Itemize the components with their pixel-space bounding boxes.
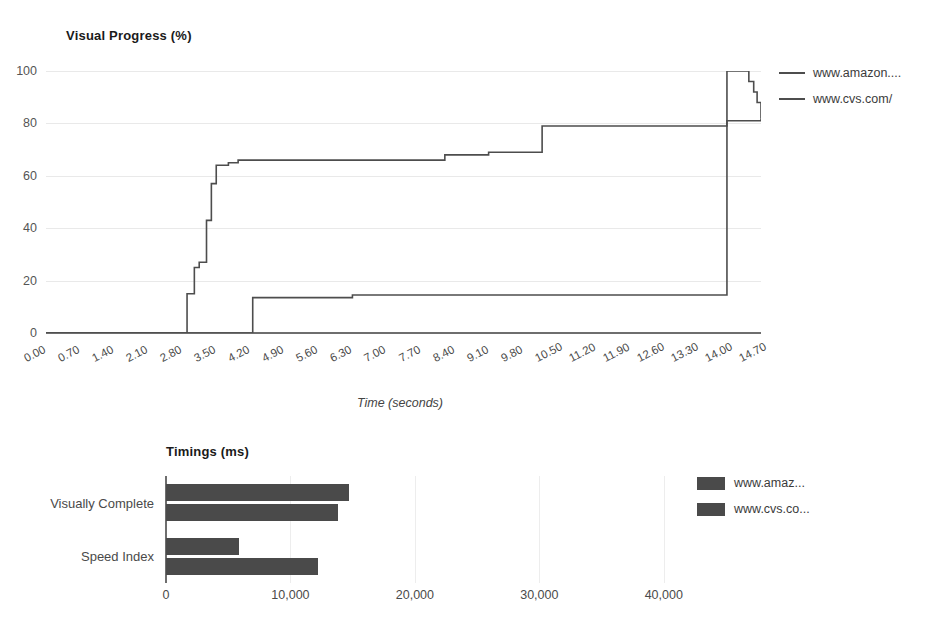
gridline (539, 476, 540, 583)
x-tick-label: 7.70 (396, 343, 421, 364)
timings-chart: Timings (ms) Visually CompleteSpeed Inde… (0, 430, 938, 619)
series-line (46, 118, 761, 333)
x-tick-label: 3.50 (192, 343, 217, 364)
y-tick-label: 80 (23, 116, 37, 130)
x-tick-label: 10,000 (271, 588, 309, 602)
gridline (664, 476, 665, 583)
bar[interactable] (166, 504, 338, 521)
x-tick-label: 40,000 (645, 588, 683, 602)
x-tick-label: 4.20 (226, 343, 251, 364)
x-tick-label: 9.80 (499, 343, 524, 364)
x-tick-label: 2.10 (124, 343, 149, 364)
legend-line-swatch-icon (779, 72, 805, 74)
x-tick-label: 14.70 (737, 340, 768, 364)
category-label: Speed Index (81, 549, 154, 564)
x-tick-label: 6.30 (328, 343, 353, 364)
y-tick-label: 100 (16, 64, 37, 78)
legend-item-amazon[interactable]: www.amazon.... (779, 66, 901, 80)
x-tick-label: 1.40 (90, 343, 115, 364)
x-tick-label: 5.60 (294, 343, 319, 364)
legend-label-amazon: www.amazon.... (813, 66, 901, 80)
x-tick-label: 11.90 (601, 341, 631, 364)
legend-swatch-icon (697, 477, 725, 490)
y-tick-label: 60 (23, 169, 37, 183)
y-tick-label: 40 (23, 221, 37, 235)
bar-chart-plot-area: Visually CompleteSpeed Index 010,00020,0… (166, 476, 726, 583)
x-tick-label: 12.60 (635, 340, 666, 364)
line-chart-x-axis-title: Time (seconds) (0, 396, 800, 410)
bar[interactable] (166, 538, 239, 555)
x-tick-label: 0.70 (56, 343, 81, 364)
bar-chart-title: Timings (ms) (166, 444, 249, 459)
category-label: Visually Complete (50, 495, 154, 510)
x-tick-label: 13.30 (669, 340, 700, 364)
legend-line-swatch-icon (779, 98, 805, 100)
x-tick-label: 0 (163, 588, 170, 602)
line-chart-title: Visual Progress (%) (66, 28, 192, 43)
gridline (415, 476, 416, 583)
x-tick-label: 11.20 (567, 341, 597, 364)
x-tick-label: 9.10 (465, 343, 490, 364)
x-tick-label: 8.40 (431, 343, 456, 364)
x-tick-label: 7.00 (362, 343, 387, 364)
x-tick-label: 4.90 (260, 343, 285, 364)
bar-legend-label-cvs: www.cvs.co... (734, 502, 810, 516)
legend-item-cvs[interactable]: www.cvs.com/ (779, 92, 901, 106)
y-tick-label: 0 (30, 326, 37, 340)
visual-progress-chart: Visual Progress (%) 020406080100 0.000.7… (0, 0, 938, 430)
legend-label-cvs: www.cvs.com/ (813, 92, 892, 106)
legend-swatch-icon (697, 503, 725, 516)
x-tick-label: 0.00 (22, 343, 47, 364)
bar[interactable] (166, 558, 318, 575)
bar-legend-item-amazon[interactable]: www.amaz... (697, 476, 810, 490)
x-tick-label: 20,000 (396, 588, 434, 602)
y-tick-label: 20 (23, 274, 37, 288)
line-chart-legend: www.amazon.... www.cvs.com/ (779, 66, 901, 106)
bar[interactable] (166, 484, 349, 501)
bar-legend-item-cvs[interactable]: www.cvs.co... (697, 502, 810, 516)
line-chart-plot-area: 020406080100 (46, 71, 761, 333)
x-tick-label: 14.00 (703, 340, 734, 364)
x-tick-label: 30,000 (520, 588, 558, 602)
x-tick-label: 2.80 (158, 343, 183, 364)
bar-legend-label-amazon: www.amaz... (734, 476, 805, 490)
series-line (46, 71, 761, 333)
line-chart-series-layer (46, 71, 761, 333)
x-tick-label: 10.50 (533, 340, 564, 364)
bar-chart-legend: www.amaz... www.cvs.co... (697, 476, 810, 516)
